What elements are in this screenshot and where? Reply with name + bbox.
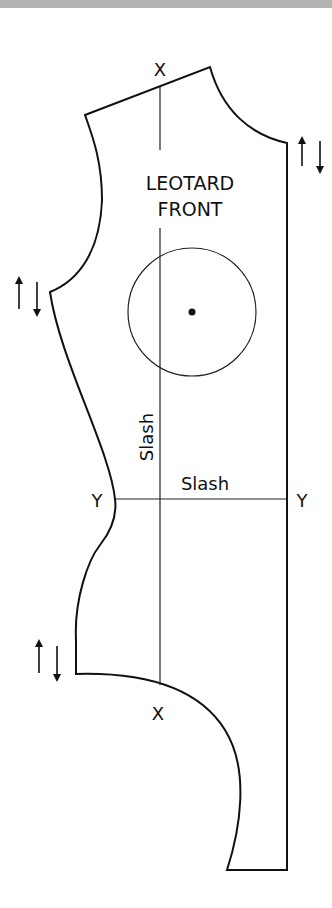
grainline-arrows-left-middle [19,280,37,313]
slash-label-vertical: Slash [136,413,157,461]
slash-label-horizontal: Slash [181,473,229,494]
marker-x-bottom: X [152,703,164,724]
pattern-title-line1: LEOTARD [146,172,235,194]
grainline-arrows-right-upper [302,140,320,170]
pattern-title-line2: FRONT [158,198,223,220]
marker-x-top: X [154,59,166,80]
leotard-front-pattern: LEOTARD FRONT X X Y Y Slash Slash [0,0,332,908]
marker-y-left: Y [91,490,104,511]
grainline-arrows-left-lower [39,643,57,678]
marker-y-right: Y [296,490,309,511]
bust-point-dot [189,309,196,316]
